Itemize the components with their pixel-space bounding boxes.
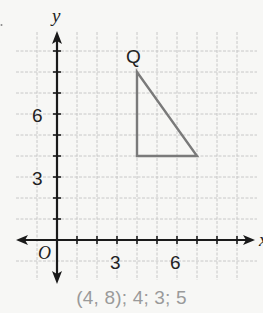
y-axis-label: y [50,5,61,26]
y-tick-label-3: 3 [32,168,43,189]
stray-mark [1,24,3,26]
x-tick-label-6: 6 [170,252,181,273]
x-tick-label-3: 3 [110,252,121,273]
answer-caption: (4, 8); 4; 3; 5 [0,287,263,309]
vertex-q-label: Q [126,46,141,67]
axis-ticks [53,51,237,244]
axes [16,31,255,284]
coordinate-plane: y x O 3 6 6 3 Q [0,0,263,313]
x-axis-label: x [258,229,263,250]
y-tick-label-6: 6 [32,105,43,126]
origin-label: O [38,243,51,263]
coordinate-plane-figure: y x O 3 6 6 3 Q (4, 8); 4; 3; 5 [0,0,263,313]
